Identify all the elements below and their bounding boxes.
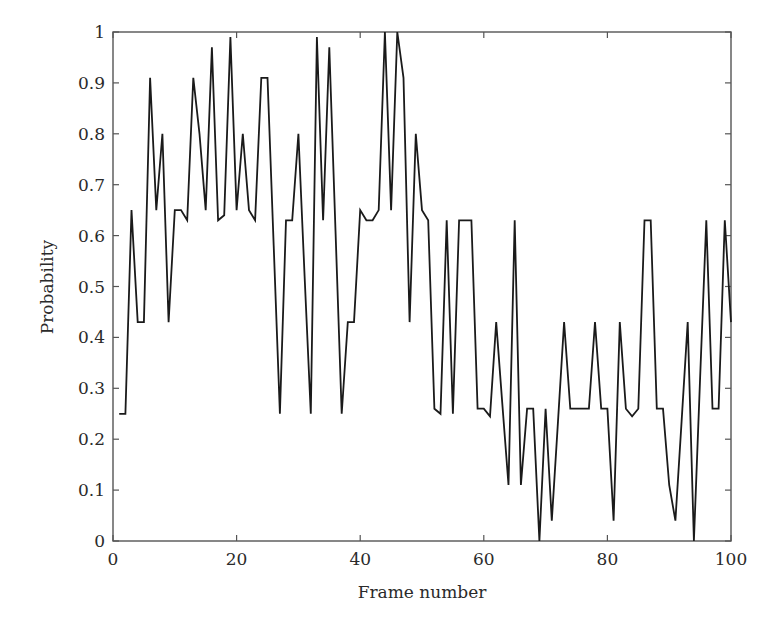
x-tick-label: 20 bbox=[226, 549, 248, 569]
plot-area bbox=[113, 32, 731, 541]
y-tick-label: 0.9 bbox=[78, 73, 105, 93]
x-tick-label: 0 bbox=[108, 549, 119, 569]
x-tick-label: 80 bbox=[597, 549, 619, 569]
y-tick-label: 0.7 bbox=[78, 175, 105, 195]
x-tick-label: 40 bbox=[349, 549, 371, 569]
x-axis-title: Frame number bbox=[358, 582, 488, 602]
y-tick-label: 0.8 bbox=[78, 124, 105, 144]
probability-line bbox=[119, 32, 731, 541]
y-tick-label: 0.2 bbox=[78, 429, 105, 449]
plot-frame bbox=[113, 32, 731, 541]
y-tick-label: 0.6 bbox=[78, 226, 105, 246]
y-tick-label: 0.4 bbox=[78, 327, 105, 347]
x-tick-label: 100 bbox=[715, 549, 747, 569]
y-tick-label: 0 bbox=[94, 531, 105, 551]
y-tick-label: 1 bbox=[94, 22, 105, 42]
y-axis-title: Probability bbox=[37, 239, 57, 334]
line-chart: 00.10.20.30.40.50.60.70.80.91 0204060801… bbox=[0, 0, 784, 633]
y-tick-label: 0.5 bbox=[78, 277, 105, 297]
x-axis: 020406080100 bbox=[108, 32, 748, 569]
data-series bbox=[119, 32, 731, 541]
y-tick-label: 0.3 bbox=[78, 378, 105, 398]
x-tick-label: 60 bbox=[473, 549, 495, 569]
y-tick-label: 0.1 bbox=[78, 480, 105, 500]
